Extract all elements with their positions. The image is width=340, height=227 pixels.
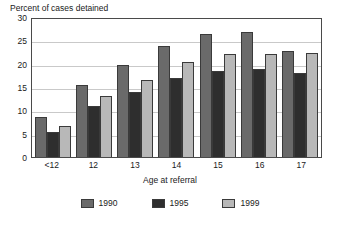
- chart-legend: 199019951999: [0, 199, 340, 208]
- y-tick-label: 25: [18, 37, 27, 46]
- x-tick-label: <12: [31, 160, 73, 170]
- legend-label: 1990: [99, 199, 118, 208]
- bar-group: [197, 19, 238, 157]
- legend-swatch-icon: [81, 199, 94, 208]
- bar-group: [32, 19, 73, 157]
- bar-1999-17[interactable]: [306, 53, 318, 157]
- x-tick-label: 13: [114, 160, 156, 170]
- legend-label: 1999: [240, 199, 259, 208]
- x-axis-title: Age at referral: [0, 175, 340, 185]
- bar-1995-<12[interactable]: [47, 132, 59, 157]
- legend-swatch-icon: [152, 199, 165, 208]
- bar-group: [73, 19, 114, 157]
- y-tick-label: 10: [18, 107, 27, 116]
- bar-1995-12[interactable]: [88, 106, 100, 157]
- legend-item-1995[interactable]: 1995: [152, 199, 189, 208]
- bar-1999-16[interactable]: [265, 54, 277, 157]
- bar-1995-16[interactable]: [253, 69, 265, 157]
- bar-1990-12[interactable]: [76, 85, 88, 157]
- plot-area: 051015202530: [0, 18, 340, 158]
- bar-1999-12[interactable]: [100, 96, 112, 157]
- bars-layer: [32, 19, 321, 157]
- y-tick-label: 20: [18, 60, 27, 69]
- plot-frame: [31, 18, 322, 158]
- bar-1999-<12[interactable]: [59, 126, 71, 157]
- y-tick-label: 15: [18, 84, 27, 93]
- bar-1999-13[interactable]: [141, 80, 153, 157]
- bar-group: [238, 19, 279, 157]
- bar-group: [280, 19, 321, 157]
- bar-1990-15[interactable]: [200, 34, 212, 157]
- bar-1995-13[interactable]: [129, 92, 141, 157]
- x-tick-label: 14: [156, 160, 198, 170]
- x-tick-label: 15: [197, 160, 239, 170]
- y-tick-label: 30: [18, 14, 27, 23]
- legend-item-1999[interactable]: 1999: [222, 199, 259, 208]
- bar-1990-<12[interactable]: [35, 117, 47, 157]
- legend-item-1990[interactable]: 1990: [81, 199, 118, 208]
- y-tick-label: 5: [22, 130, 27, 139]
- y-tick-label: 0: [22, 154, 27, 163]
- bar-group: [156, 19, 197, 157]
- x-tick-label: 12: [73, 160, 115, 170]
- bar-1995-14[interactable]: [170, 78, 182, 157]
- bar-1990-16[interactable]: [241, 32, 253, 157]
- bar-1990-13[interactable]: [117, 65, 129, 157]
- bar-1999-14[interactable]: [182, 62, 194, 157]
- y-axis-tick-labels: 051015202530: [0, 18, 30, 158]
- bar-1999-15[interactable]: [224, 54, 236, 157]
- legend-swatch-icon: [222, 199, 235, 208]
- bar-1990-14[interactable]: [158, 46, 170, 157]
- legend-label: 1995: [170, 199, 189, 208]
- bar-group: [115, 19, 156, 157]
- x-tick-label: 17: [280, 160, 322, 170]
- x-axis-tick-labels: <12121314151617: [31, 160, 322, 170]
- x-tick-label: 16: [239, 160, 281, 170]
- bar-1995-15[interactable]: [212, 71, 224, 157]
- bar-1995-17[interactable]: [294, 73, 306, 157]
- bar-1990-17[interactable]: [282, 51, 294, 157]
